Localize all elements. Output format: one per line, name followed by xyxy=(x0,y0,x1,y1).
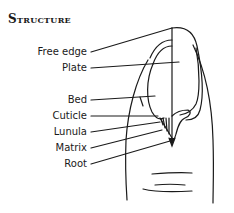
fingernail-illustration xyxy=(0,0,234,213)
bed-stroke xyxy=(140,97,143,106)
leader-free-edge xyxy=(91,28,172,52)
knuckle-crease-3 xyxy=(143,189,192,192)
knuckle-crease-2 xyxy=(155,184,185,185)
knuckle-crease-1 xyxy=(152,173,192,174)
leader-plate xyxy=(91,62,179,68)
nail-plate-left xyxy=(148,64,164,119)
finger-left-outline xyxy=(126,60,148,200)
nail-inner-right xyxy=(180,48,199,115)
free-edge-line-1 xyxy=(150,40,172,58)
nail-outer-edge xyxy=(172,28,202,120)
finger-right-outline xyxy=(193,45,213,203)
root-tip xyxy=(169,138,175,146)
leader-bed xyxy=(91,96,155,100)
leader-lunula xyxy=(91,122,160,132)
